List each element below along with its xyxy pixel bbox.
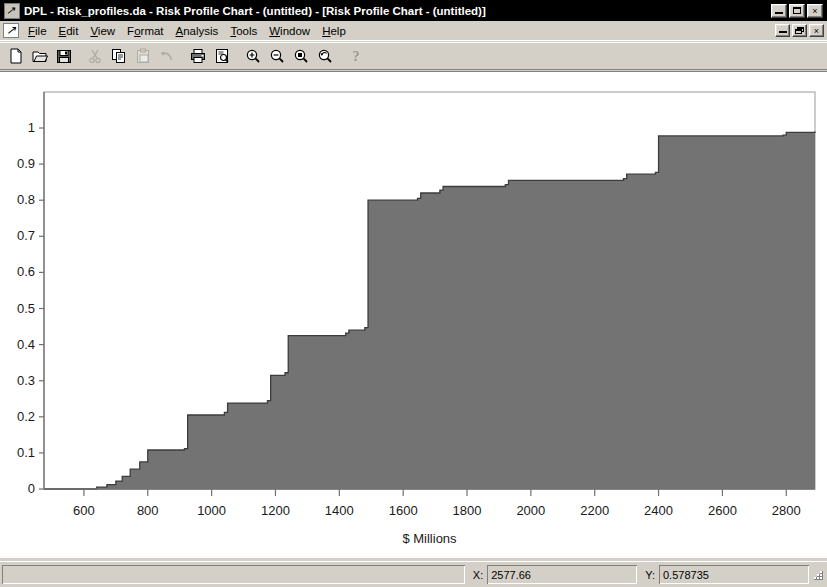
x-axis-tick-label: 2200 (580, 503, 609, 518)
print-button[interactable] (186, 45, 209, 67)
cut-scissors-icon (84, 46, 105, 66)
toolbar-separator (234, 45, 241, 67)
y-axis-tick-label: 0.1 (17, 445, 35, 460)
menu-item-file[interactable]: File (22, 23, 53, 39)
zoom-window-icon (290, 46, 311, 66)
x-axis-tick-label: 2000 (516, 503, 545, 518)
menu-bar: ↗ File Edit View Format Analysis Tools W… (0, 21, 827, 41)
toolbar-separator (76, 45, 83, 67)
x-axis-tick-label: 1000 (197, 503, 226, 518)
x-axis-tick-label: 1200 (261, 503, 290, 518)
y-axis-tick-label: 0.6 (17, 264, 35, 279)
y-axis-tick-label: 0.9 (17, 156, 35, 171)
x-axis-tick-label: 1800 (453, 503, 482, 518)
y-axis-tick-label: 0.5 (17, 301, 35, 316)
x-axis-tick-label: 1400 (325, 503, 354, 518)
y-axis-tick-label: 0.8 (17, 192, 35, 207)
status-bar: X: 2577.66 Y: 0.578735 (0, 561, 827, 587)
status-y-pane: 0.578735 (659, 565, 809, 584)
window-title: DPL - Risk_profiles.da - Risk Profile Ch… (24, 5, 771, 17)
menu-item-view[interactable]: View (84, 23, 121, 39)
menu-item-help[interactable]: Help (316, 23, 352, 39)
zoom-previous-button[interactable] (313, 45, 336, 67)
status-x-label: X: (473, 569, 483, 581)
maximize-button[interactable] (789, 4, 805, 18)
x-axis-tick-label: 2800 (772, 503, 801, 518)
save-disk-icon (53, 46, 74, 66)
print-icon (187, 46, 208, 66)
print-preview-icon (211, 46, 232, 66)
menu-item-tools-label: ools (236, 25, 257, 37)
doc-restore-button[interactable] (792, 24, 807, 37)
paste-button[interactable] (131, 45, 154, 67)
undo-button[interactable] (155, 45, 178, 67)
doc-close-button[interactable]: × (809, 24, 824, 37)
save-button[interactable] (52, 45, 75, 67)
menu-item-edit-label: dit (66, 25, 78, 37)
menu-item-analysis-label: nalysis (183, 25, 218, 37)
menu-item-edit[interactable]: Edit (53, 23, 85, 39)
open-folder-icon (29, 46, 50, 66)
x-axis-tick-label: 2600 (708, 503, 737, 518)
x-axis-tick-label: 2400 (644, 503, 673, 518)
cut-button[interactable] (83, 45, 106, 67)
dpl-app-icon: ↗ (4, 3, 20, 19)
menu-item-file-label: ile (35, 25, 47, 37)
resize-grip[interactable] (811, 568, 825, 582)
menu-items: File Edit View Format Analysis Tools Win… (22, 23, 775, 39)
menu-item-window[interactable]: Window (263, 23, 316, 39)
menu-item-format[interactable]: Format (121, 23, 169, 39)
new-icon (5, 46, 26, 66)
help-question-icon: ? (345, 46, 366, 66)
menu-item-view-label: iew (98, 25, 115, 37)
status-x-pane: 2577.66 (487, 565, 637, 584)
zoom-window-button[interactable] (289, 45, 312, 67)
y-axis-tick-label: 0.4 (17, 337, 35, 352)
zoom-out-icon (266, 46, 287, 66)
chart-client-area[interactable]: 00.10.20.30.40.50.60.70.80.9160080010001… (0, 71, 827, 558)
print-preview-button[interactable] (210, 45, 233, 67)
status-y-value: 0.578735 (663, 569, 709, 581)
minimize-button[interactable] (771, 4, 787, 18)
x-axis-tick-label: 1600 (389, 503, 418, 518)
status-x-value: 2577.66 (491, 569, 531, 581)
undo-arrow-icon (156, 46, 177, 66)
copy-button[interactable] (107, 45, 130, 67)
y-axis-tick-label: 1 (28, 120, 35, 135)
title-bar: ↗ DPL - Risk_profiles.da - Risk Profile … (0, 0, 827, 21)
x-axis-tick-label: 800 (137, 503, 159, 518)
risk-profile-chart[interactable]: 00.10.20.30.40.50.60.70.80.9160080010001… (0, 72, 827, 558)
paste-clipboard-icon (132, 46, 153, 66)
zoom-out-button[interactable] (265, 45, 288, 67)
open-button[interactable] (28, 45, 51, 67)
doc-close-icon: × (810, 25, 823, 36)
y-axis-tick-label: 0.7 (17, 228, 35, 243)
svg-text:?: ? (352, 49, 359, 64)
doc-minimize-button[interactable] (775, 24, 790, 37)
y-axis-tick-label: 0.3 (17, 373, 35, 388)
application-window: ↗ DPL - Risk_profiles.da - Risk Profile … (0, 0, 827, 587)
document-window-controls: × (775, 24, 824, 37)
window-controls: × (771, 4, 823, 18)
menu-item-window-label: indow (280, 25, 310, 37)
y-axis-tick-label: 0 (28, 481, 35, 496)
toolbar-separator (337, 45, 344, 67)
x-axis-title: $ Millions (402, 531, 457, 546)
y-axis-tick-label: 0.2 (17, 409, 35, 424)
toolbar: ? (0, 42, 827, 70)
zoom-previous-icon (314, 46, 335, 66)
copy-icon (108, 46, 129, 66)
close-icon: × (808, 5, 822, 17)
menu-item-tools[interactable]: Tools (224, 23, 263, 39)
menu-item-format-label: rmat (141, 25, 164, 37)
document-icon[interactable]: ↗ (3, 23, 19, 38)
menu-item-analysis[interactable]: Analysis (170, 23, 225, 39)
toolbar-separator (179, 45, 186, 67)
zoom-in-icon (242, 46, 263, 66)
help-button[interactable]: ? (344, 45, 367, 67)
zoom-in-button[interactable] (241, 45, 264, 67)
x-axis-tick-label: 600 (73, 503, 95, 518)
new-button[interactable] (4, 45, 27, 67)
close-button[interactable]: × (807, 4, 823, 18)
status-y-label: Y: (645, 569, 655, 581)
